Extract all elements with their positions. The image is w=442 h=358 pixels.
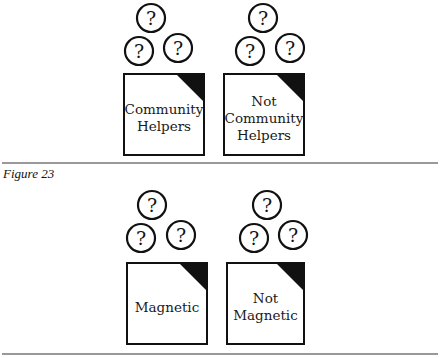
question-mark: ?: [258, 7, 268, 29]
box-label: Magnetic: [233, 307, 298, 323]
figure-caption: Figure 23: [2, 166, 55, 181]
question-mark: ?: [176, 224, 186, 246]
question-mark: ?: [262, 194, 272, 216]
sorting-box: ???NotCommunityHelpers: [224, 4, 304, 155]
box-label: Helpers: [237, 127, 291, 143]
box-label: Community: [125, 101, 204, 117]
question-mark: ?: [288, 224, 298, 246]
question-mark: ?: [249, 227, 259, 249]
sorting-box: ???CommunityHelpers: [124, 4, 204, 155]
box-label: Magnetic: [135, 299, 200, 315]
box-label: Helpers: [137, 118, 191, 134]
question-mark: ?: [134, 40, 144, 62]
question-mark: ?: [245, 40, 255, 62]
sorting-box: ???Magnetic: [127, 191, 207, 344]
sorting-diagram: ???CommunityHelpers???NotCommunityHelper…: [0, 0, 442, 358]
question-mark: ?: [136, 227, 146, 249]
question-mark: ?: [173, 37, 183, 59]
figure-community-helpers: ???CommunityHelpers???NotCommunityHelper…: [124, 4, 304, 155]
figure-magnetic: ???Magnetic???NotMagnetic: [127, 191, 307, 344]
question-mark: ?: [147, 194, 157, 216]
question-mark: ?: [146, 7, 156, 29]
box-label: Not: [251, 93, 277, 109]
sorting-box: ???NotMagnetic: [227, 191, 307, 344]
box-label: Community: [225, 110, 304, 126]
box-label: Not: [253, 290, 279, 306]
question-mark: ?: [285, 37, 295, 59]
